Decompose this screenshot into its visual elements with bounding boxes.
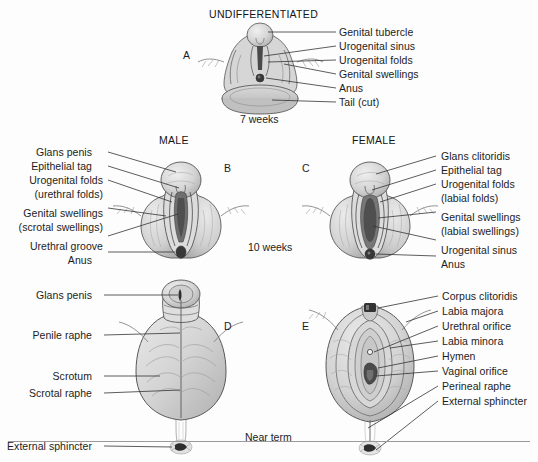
label-b-urogenital-folds: Urogenital folds (29, 174, 103, 186)
label-a-urogenital-folds: Urogenital folds (339, 54, 413, 66)
label-e-urethral-orifice: Urethral orifice (442, 320, 511, 332)
label-a-genital-swellings: Genital swellings (339, 68, 419, 80)
label-c-urogenital-folds: Urogenital folds (441, 178, 515, 190)
label-b-genital-swellings: Genital swellings (23, 207, 103, 219)
panel-b-drawing (113, 162, 249, 258)
panel-d-drawing (119, 280, 243, 454)
stage-ten-weeks: 10 weeks (248, 241, 292, 253)
label-d-glans-penis: Glans penis (36, 289, 92, 301)
label-c-labial-swellings: (labial swellings) (441, 225, 519, 237)
label-e-labia-majora: Labia majora (442, 305, 503, 317)
label-a-urogenital-sinus: Urogenital sinus (339, 40, 415, 52)
label-c-epithelial-tag: Epithelial tag (441, 164, 502, 176)
label-b-glans-penis: Glans penis (36, 146, 92, 158)
label-a-genital-tubercle: Genital tubercle (339, 26, 413, 38)
label-c-labial-folds: (labial folds) (441, 192, 498, 204)
heading-male: MALE (159, 134, 189, 146)
label-b-urethral-folds: (urethral folds) (35, 188, 104, 200)
label-c-urogenital-sinus: Urogenital sinus (441, 244, 517, 256)
label-c-genital-swellings: Genital swellings (441, 211, 521, 223)
panel-letter-b: B (224, 162, 231, 174)
heading-female: FEMALE (352, 134, 396, 146)
stage-seven-weeks: 7 weeks (240, 113, 279, 125)
label-e-labia-minora: Labia minora (442, 335, 503, 347)
label-d-penile-raphe: Penile raphe (32, 329, 92, 341)
label-a-tail-cut: Tail (cut) (339, 96, 379, 108)
label-e-vaginal-orifice: Vaginal orifice (442, 365, 508, 377)
label-e-corpus-clitoridis: Corpus clitoridis (442, 290, 518, 302)
panel-letter-d: D (224, 320, 232, 332)
label-c-anus: Anus (441, 258, 465, 270)
label-e-external-sphincter: External sphincter (442, 395, 527, 407)
label-b-scrotal-swellings: (scrotal swellings) (19, 221, 103, 233)
panel-c-drawing (302, 162, 438, 259)
label-a-anus: Anus (339, 82, 363, 94)
label-c-glans-clitoridis: Glans clitoridis (441, 150, 510, 162)
bottom-divider (8, 441, 530, 442)
panel-letter-c: C (302, 162, 310, 174)
label-e-perineal-raphe: Perineal raphe (442, 380, 511, 392)
label-b-urethral-groove: Urethral groove (30, 240, 103, 252)
figure-container: UNDIFFERENTIATED MALE FEMALE A B C D E 7… (0, 0, 538, 462)
panel-e-drawing (309, 303, 431, 455)
heading-undifferentiated: UNDIFFERENTIATED (209, 8, 318, 20)
label-e-hymen: Hymen (442, 350, 476, 362)
label-b-epithelial-tag: Epithelial tag (31, 160, 92, 172)
label-d-scrotal-raphe: Scrotal raphe (29, 387, 92, 399)
panel-letter-e: E (302, 320, 309, 332)
panel-a-drawing (198, 23, 323, 114)
label-b-anus: Anus (68, 254, 92, 266)
panel-letter-a: A (183, 49, 190, 61)
label-d-scrotum: Scrotum (53, 370, 92, 382)
